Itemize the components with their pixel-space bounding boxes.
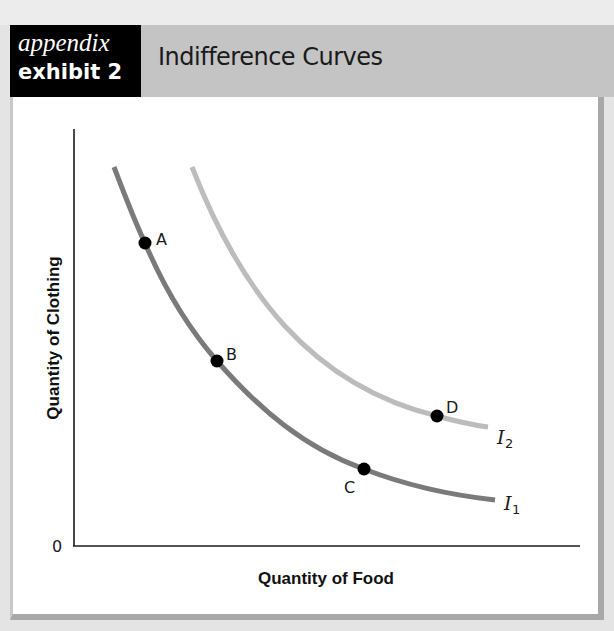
curve-i2 bbox=[192, 167, 488, 427]
curve-i2-label: I bbox=[496, 426, 505, 448]
point-b-label: B bbox=[226, 345, 237, 364]
point-a-marker bbox=[139, 237, 152, 250]
point-d-marker bbox=[431, 410, 444, 423]
y-axis-label: Quantity of Clothing bbox=[44, 256, 63, 419]
curve-i1 bbox=[114, 167, 495, 500]
point-b-marker bbox=[211, 355, 224, 368]
origin-label: 0 bbox=[52, 537, 62, 556]
chart-plot: A B C D I I 2 1 0 Quantity of Food Quant… bbox=[0, 0, 614, 631]
curve-i1-subscript: 1 bbox=[512, 502, 520, 517]
point-d-label: D bbox=[446, 398, 458, 417]
x-axis-label: Quantity of Food bbox=[258, 569, 394, 588]
point-a-label: A bbox=[156, 230, 167, 249]
point-c-marker bbox=[358, 463, 371, 476]
curve-i1-label: I bbox=[503, 492, 512, 514]
point-c-label: C bbox=[344, 478, 355, 497]
curve-i2-subscript: 2 bbox=[505, 436, 513, 451]
